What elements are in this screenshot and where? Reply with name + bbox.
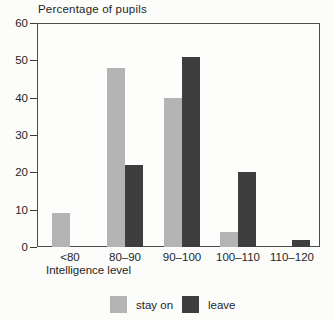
y-axis-label-30: 30 <box>2 130 28 141</box>
y-axis-label-60: 60 <box>2 18 28 29</box>
y-axis-tick-40 <box>30 98 37 99</box>
legend-swatch-stay-on <box>110 296 127 313</box>
y-axis-tick-50 <box>30 60 37 61</box>
bar-chart-figure: Percentage of pupils Intelligence level … <box>0 0 333 321</box>
bar-stay-on-<80 <box>52 213 70 247</box>
legend-label-stay-on: stay on <box>136 299 173 311</box>
x-axis-title: Intelligence level <box>46 264 131 276</box>
bar-leave-80–90 <box>125 165 143 247</box>
y-axis-tick-0 <box>30 247 37 248</box>
bar-stay-on-80–90 <box>107 68 125 247</box>
chart-title: Percentage of pupils <box>38 3 147 15</box>
bar-leave-100–110 <box>238 172 256 247</box>
bar-stay-on-100–110 <box>220 232 238 247</box>
y-axis-label-40: 40 <box>2 93 28 104</box>
y-axis-label-10: 10 <box>2 205 28 216</box>
y-axis-tick-30 <box>30 135 37 136</box>
legend-item-leave: leave <box>182 296 236 313</box>
y-axis-tick-60 <box>30 23 37 24</box>
y-axis-label-0: 0 <box>2 242 28 253</box>
y-axis-tick-20 <box>30 172 37 173</box>
legend-item-stay-on: stay on <box>110 296 173 313</box>
legend-label-leave: leave <box>208 299 236 311</box>
legend-swatch-leave <box>182 296 199 313</box>
bar-stay-on-90–100 <box>164 98 182 247</box>
y-axis-tick-10 <box>30 210 37 211</box>
y-axis-label-20: 20 <box>2 167 28 178</box>
y-axis-label-50: 50 <box>2 55 28 66</box>
bar-leave-90–100 <box>182 57 200 247</box>
x-axis-label-5: 110–120 <box>257 251 327 263</box>
bar-leave-110–120 <box>292 240 310 247</box>
